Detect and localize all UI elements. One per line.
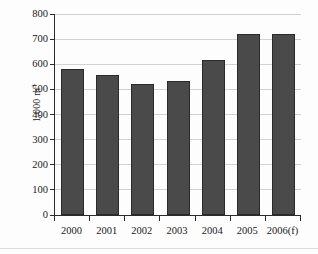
y-axis-tick-label: 200 xyxy=(22,160,48,170)
y-axis-tick-label: 500 xyxy=(22,84,48,94)
y-axis-tick-label: 0 xyxy=(22,210,48,220)
bar-chart: 1,000 m3 0100200300400500600700800 20002… xyxy=(0,0,318,254)
x-axis-tick-label: 2006(f) xyxy=(259,224,306,237)
x-axis-tick-mark xyxy=(300,215,301,221)
bar-series xyxy=(55,14,301,215)
x-axis-tick-labels: 2000200120022003200420052006(f) xyxy=(54,224,301,240)
bar xyxy=(131,84,154,215)
x-axis-tick-mark xyxy=(230,215,231,221)
y-axis-tick-label: 100 xyxy=(22,185,48,195)
x-axis-tick-mark xyxy=(89,215,90,221)
plot-area xyxy=(54,14,301,216)
bar xyxy=(61,69,84,215)
y-axis-tick-label: 700 xyxy=(22,34,48,44)
x-axis-tick-marks xyxy=(54,215,301,221)
y-axis-tick-label: 600 xyxy=(22,59,48,69)
bar xyxy=(272,34,295,215)
x-axis-tick-mark xyxy=(265,215,266,221)
y-axis-tick-label: 400 xyxy=(22,110,48,120)
y-axis-tick-labels: 0100200300400500600700800 xyxy=(20,0,48,254)
x-axis-tick-mark xyxy=(195,215,196,221)
figure-bottom-rule xyxy=(0,248,318,249)
y-axis-tick-label: 800 xyxy=(22,9,48,19)
x-axis-tick-mark xyxy=(54,215,55,221)
y-axis-tick-label: 300 xyxy=(22,135,48,145)
bar xyxy=(237,34,260,215)
bar xyxy=(202,60,225,215)
bar xyxy=(167,81,190,215)
bar xyxy=(96,75,119,215)
x-axis-tick-mark xyxy=(124,215,125,221)
x-axis-tick-mark xyxy=(159,215,160,221)
